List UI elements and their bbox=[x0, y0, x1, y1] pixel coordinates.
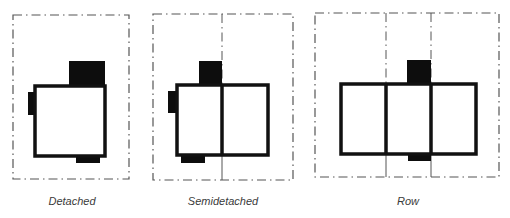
house-types-diagram bbox=[0, 0, 510, 218]
label-semidetached: Semidetached bbox=[188, 195, 258, 207]
detached-house-outline bbox=[35, 86, 105, 156]
semidetached-annex-block bbox=[199, 61, 222, 85]
label-row: Row bbox=[397, 195, 419, 207]
row-annex-block bbox=[407, 60, 431, 84]
label-detached: Detached bbox=[48, 195, 95, 207]
detached-annex-block bbox=[69, 61, 105, 86]
row-house-outline bbox=[341, 84, 476, 154]
